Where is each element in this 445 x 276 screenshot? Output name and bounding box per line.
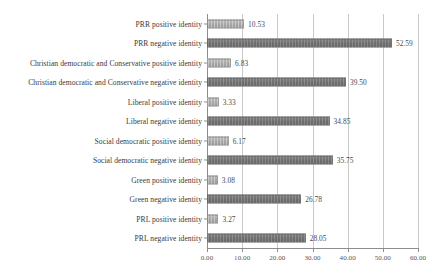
category-label: PRL negative identity (135, 234, 202, 243)
bar-value-label: 10.53 (248, 19, 265, 28)
chart-row: Green positive identity3.08 (207, 170, 418, 190)
chart-row: Green negative identity26.78 (207, 190, 418, 210)
category-label: Christian democratic and Conservative po… (30, 58, 202, 67)
chart-row: Liberal negative identity34.85 (207, 112, 418, 132)
chart-row: Social democratic negative identity35.75 (207, 151, 418, 171)
bar (207, 234, 306, 243)
x-tick-mark (348, 248, 349, 252)
bar-value-label: 3.08 (222, 175, 235, 184)
bar (207, 117, 330, 126)
bar-chart: PRR positive identity10.53PRR negative i… (0, 0, 445, 276)
bar-value-label: 34.85 (334, 117, 351, 126)
bar-value-label: 3.27 (222, 214, 235, 223)
bar (207, 58, 231, 67)
category-label: PRR negative identity (134, 39, 202, 48)
category-label: Social democratic negative identity (93, 156, 202, 165)
x-tick-mark (207, 248, 208, 252)
bar (207, 136, 229, 145)
x-tick-mark (242, 248, 243, 252)
x-tick-label: 50.00 (375, 254, 391, 262)
category-label: Christian democratic and Conservative ne… (28, 78, 202, 87)
bar (207, 195, 301, 204)
x-tick-label: 40.00 (340, 254, 356, 262)
bar-value-label: 39.50 (350, 78, 367, 87)
x-tick-mark (277, 248, 278, 252)
bar-value-label: 6.17 (233, 136, 246, 145)
category-label: PRL positive identity (136, 214, 202, 223)
category-label: Liberal positive identity (128, 97, 202, 106)
gridline-60.00 (418, 14, 419, 248)
bar (207, 39, 392, 48)
plot-area: PRR positive identity10.53PRR negative i… (207, 14, 418, 248)
x-tick-label: 60.00 (410, 254, 426, 262)
chart-row: Social democratic positive identity6.17 (207, 131, 418, 151)
x-tick-mark (383, 248, 384, 252)
bar-value-label: 52.59 (396, 39, 413, 48)
bar (207, 156, 333, 165)
chart-row: Christian democratic and Conservative po… (207, 53, 418, 73)
bar (207, 97, 219, 106)
x-tick-mark (313, 248, 314, 252)
bar (207, 19, 244, 28)
chart-row: Christian democratic and Conservative ne… (207, 73, 418, 93)
bar-value-label: 35.75 (337, 156, 354, 165)
bar-value-label: 26.78 (305, 195, 322, 204)
category-label: PRR positive identity (136, 19, 202, 28)
x-tick-mark (418, 248, 419, 252)
x-tick-label: 10.00 (234, 254, 250, 262)
bar-value-label: 3.33 (223, 97, 236, 106)
chart-row: PRL positive identity3.27 (207, 209, 418, 229)
x-tick-label: 30.00 (304, 254, 320, 262)
category-label: Social democratic positive identity (95, 136, 202, 145)
category-label: Liberal negative identity (126, 117, 202, 126)
bar-value-label: 28.05 (310, 234, 327, 243)
x-tick-label: 0.00 (201, 254, 214, 262)
bar (207, 78, 346, 87)
bar (207, 175, 218, 184)
chart-row: PRR negative identity52.59 (207, 34, 418, 54)
bar-value-label: 6.83 (235, 58, 248, 67)
bar (207, 214, 218, 223)
chart-row: Liberal positive identity3.33 (207, 92, 418, 112)
category-label: Green negative identity (130, 195, 202, 204)
chart-row: PRR positive identity10.53 (207, 14, 418, 34)
x-tick-label: 20.00 (269, 254, 285, 262)
chart-row: PRL negative identity28.05 (207, 229, 418, 249)
category-label: Green positive identity (131, 175, 202, 184)
